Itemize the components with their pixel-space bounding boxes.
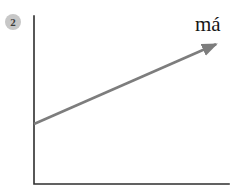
arrow-label: má	[195, 13, 221, 36]
figure-canvas: 2 má	[0, 0, 242, 193]
trend-arrow	[34, 44, 216, 124]
axes	[34, 16, 229, 184]
